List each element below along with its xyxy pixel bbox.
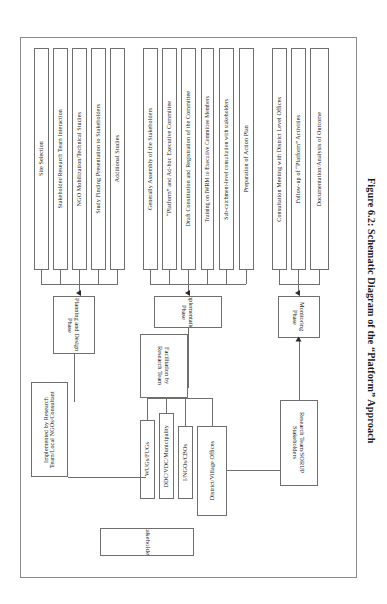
stakeholder-group-label: DDC/VDC/Municipality bbox=[163, 425, 169, 488]
activity-label: Stakeholder/Research Team Interaction bbox=[57, 109, 63, 209]
phase-label-box: Planning and Design Phase bbox=[53, 296, 95, 354]
connector-vertical bbox=[188, 270, 189, 284]
connector-bus bbox=[74, 477, 145, 478]
activity-box: Generally Assembly of the Stakeholders bbox=[143, 48, 158, 270]
connector-vertical bbox=[79, 270, 80, 284]
phase-label: Monitoring Phase bbox=[292, 297, 306, 337]
activity-label: NGO Mobilization/Technical Studies bbox=[76, 112, 82, 206]
activity-box: Documentation/Analysis of Outcome bbox=[310, 48, 329, 270]
activity-box: Follow-up of “Platform” Activities bbox=[291, 48, 306, 270]
activity-box: Consultation Meeting with District Level… bbox=[272, 48, 287, 270]
connector-vertical bbox=[188, 328, 189, 388]
activity-label: Generally Assembly of the Stakeholders bbox=[147, 108, 153, 210]
connector-vertical bbox=[145, 477, 146, 478]
phase-label-box: Monitoring Phase bbox=[278, 296, 320, 338]
stakeholder-group-box: WUGs/FUGs bbox=[140, 420, 155, 499]
connector-vertical bbox=[212, 398, 213, 426]
activity-label: Preparation of Action Plan bbox=[243, 125, 249, 192]
connector-bus bbox=[279, 284, 320, 285]
connector-vertical bbox=[60, 270, 61, 284]
actor-label: Implemented by Research Team/Local NGOs/… bbox=[43, 384, 56, 476]
connector-vertical bbox=[147, 398, 148, 420]
connector-vertical bbox=[41, 270, 42, 284]
stakeholder-group-label: WUGs/FUGs bbox=[144, 442, 150, 476]
connector-vertical bbox=[74, 354, 75, 402]
figure-page: Site Selection Stakeholder/Research Team… bbox=[0, 0, 387, 604]
stakeholder-group-box: DDC/VDC/Municipality bbox=[159, 413, 174, 499]
activity-box: Stakeholder/Research Team Interaction bbox=[53, 48, 68, 270]
activity-box: Draft Constitution and Registration of t… bbox=[181, 48, 196, 270]
figure-caption: Figure 6.2: Schematic Diagram of the “Pl… bbox=[366, 178, 377, 444]
actor-box: Implemented by Research Team/Local NGOs/… bbox=[31, 382, 68, 477]
activity-label: Draft Constitution and Registration of t… bbox=[185, 91, 191, 227]
stakeholder-group-box: I/NGOs/CBOs bbox=[178, 426, 193, 499]
stakeholders-label-box: Stakeholders bbox=[100, 528, 194, 556]
connector-vertical bbox=[298, 270, 299, 284]
activity-label: Additional Studies bbox=[114, 135, 120, 182]
activity-label: Documentation/Analysis of Outcome bbox=[316, 112, 322, 206]
activity-box: Sub-catchment-level consultation with st… bbox=[219, 48, 234, 270]
activity-box: Study Finding Presentation to Stakeholde… bbox=[91, 48, 106, 270]
connector-bus bbox=[147, 398, 213, 399]
activity-label: Study Finding Presentation to Stakeholde… bbox=[95, 104, 101, 214]
activity-label: Follow-up of “Platform” Activities bbox=[295, 115, 301, 204]
activity-label: Sub-catchment-level consultation with st… bbox=[224, 99, 230, 220]
connector-vertical bbox=[150, 270, 151, 284]
connector-vertical bbox=[98, 270, 99, 284]
activity-label: Site Selection bbox=[38, 141, 44, 176]
connector-vertical bbox=[319, 270, 320, 284]
actor-label: Research Team/SORUP Stakeholders bbox=[292, 401, 306, 485]
phase-label-box: Implementation Phase bbox=[154, 296, 222, 328]
stakeholder-group-label: I/NGOs/CBOs bbox=[182, 444, 188, 481]
connector-vertical bbox=[169, 270, 170, 284]
activity-label: “Platform” and Ad-hoc Executive Committe… bbox=[166, 101, 172, 216]
connector-vertical bbox=[117, 270, 118, 284]
connector-bus bbox=[150, 284, 246, 285]
activity-box: Training on IWRM to Executive Committee … bbox=[201, 48, 214, 270]
phase-label: Planning and Design Phase bbox=[67, 297, 81, 353]
activity-box: NGO Mobilization/Technical Studies bbox=[72, 48, 87, 270]
connector-vertical bbox=[299, 338, 300, 402]
stakeholder-group-label: District/Village Offices bbox=[209, 441, 215, 500]
activity-box: Additional Studies bbox=[110, 48, 125, 270]
connector-vertical bbox=[246, 270, 247, 284]
phase-label: Implementation Phase bbox=[181, 296, 195, 328]
actor-box: Facilitation by Research Team bbox=[140, 334, 188, 398]
connector-vertical bbox=[226, 270, 227, 284]
arrow-head bbox=[296, 337, 302, 342]
activity-box: Site Selection bbox=[34, 48, 49, 270]
activity-box: Preparation of Action Plan bbox=[239, 48, 254, 270]
stakeholders-label: Stakeholders bbox=[143, 528, 151, 556]
actor-box: Research Team/SORUP Stakeholders bbox=[280, 400, 318, 486]
connector-vertical bbox=[166, 398, 167, 413]
actor-label: Facilitation by Research Team bbox=[157, 335, 171, 397]
activity-label: Consultation Meeting with District Level… bbox=[276, 97, 282, 222]
connector-vertical bbox=[207, 270, 208, 284]
activity-box: “Platform” and Ad-hoc Executive Committe… bbox=[162, 48, 177, 270]
connector-vertical bbox=[279, 270, 280, 284]
connector-bus bbox=[227, 470, 280, 471]
stakeholder-group-box: District/Village Offices bbox=[197, 426, 227, 516]
connector-vertical bbox=[185, 398, 186, 426]
activity-label: Training on IWRM to Executive Committee … bbox=[205, 96, 211, 222]
